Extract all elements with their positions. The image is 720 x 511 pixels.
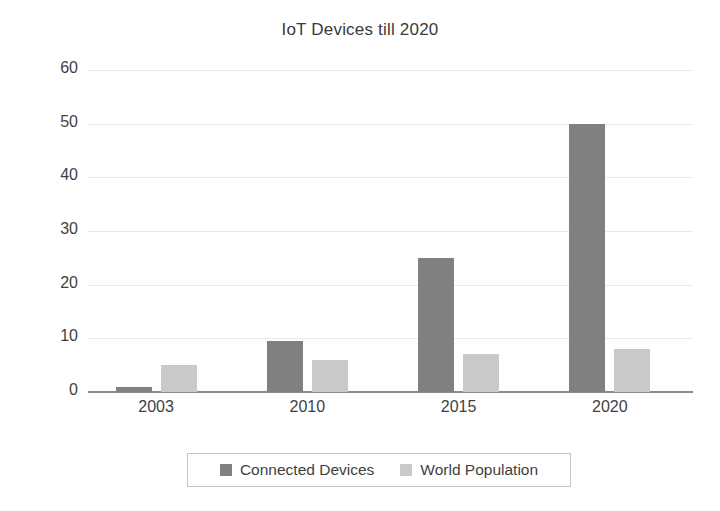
chart-title: IoT Devices till 2020 xyxy=(0,20,720,40)
legend-swatch-icon xyxy=(220,464,232,476)
x-axis-tick-label: 2015 xyxy=(383,398,534,416)
bar xyxy=(614,349,650,392)
x-axis-tick-label: 2010 xyxy=(232,398,383,416)
y-axis-tick-label: 20 xyxy=(0,274,78,292)
y-axis-tick-label: 10 xyxy=(0,327,78,345)
bar xyxy=(312,360,348,392)
chart-legend: Connected DevicesWorld Population xyxy=(187,453,571,487)
bars-layer xyxy=(88,70,693,392)
legend-label: Connected Devices xyxy=(240,461,374,479)
y-axis-tick-label: 40 xyxy=(0,166,78,184)
x-axis-tick-label: 2020 xyxy=(534,398,685,416)
legend-item[interactable]: Connected Devices xyxy=(220,461,374,479)
y-axis-tick-label: 60 xyxy=(0,59,78,77)
legend-swatch-icon xyxy=(400,464,412,476)
legend-label: World Population xyxy=(420,461,538,479)
y-axis-tick-labels: 0102030405060 xyxy=(0,0,78,511)
x-axis-tick-label: 2003 xyxy=(80,398,231,416)
y-axis-tick-label: 30 xyxy=(0,220,78,238)
bar xyxy=(116,387,152,392)
bar xyxy=(267,341,303,392)
y-axis-tick-label: 50 xyxy=(0,113,78,131)
legend-item[interactable]: World Population xyxy=(400,461,538,479)
x-axis-tick-labels: 2003201020152020 xyxy=(88,398,693,424)
y-axis-tick-label: 0 xyxy=(0,381,78,399)
bar xyxy=(569,124,605,392)
chart-container: IoT Devices till 2020 0102030405060 2003… xyxy=(0,0,720,511)
bar xyxy=(418,258,454,392)
bar xyxy=(463,354,499,392)
bar xyxy=(161,365,197,392)
